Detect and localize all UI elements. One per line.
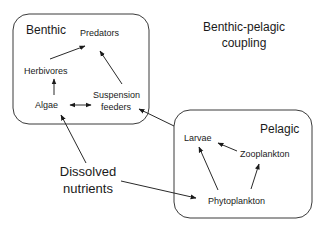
arrow-pelagic-to-suspension-feeders	[139, 109, 174, 126]
arrow-phytoplankton-to-larvae	[199, 147, 218, 190]
diagram-title-line1: Benthic-pelagic	[203, 20, 285, 34]
node-predators: Predators	[80, 28, 120, 38]
node-algae: Algae	[35, 100, 58, 110]
arrow-suspension-to-predators	[100, 51, 122, 84]
benthic-label: Benthic	[26, 23, 66, 37]
node-dissolved-nutrients-line2: nutrients	[63, 181, 113, 196]
node-suspension-feeders-line1: Suspension	[93, 90, 140, 100]
arrow-nutrients-to-algae	[61, 115, 86, 163]
arrow-nutrients-to-phytoplankton	[121, 181, 196, 198]
arrow-zooplankton-to-larvae	[218, 143, 237, 151]
node-herbivores: Herbivores	[24, 66, 68, 76]
node-larvae: Larvae	[184, 133, 212, 143]
arrow-phytoplankton-to-zooplankton	[251, 164, 259, 189]
node-dissolved-nutrients-line1: Dissolved	[60, 164, 116, 179]
node-phytoplankton: Phytoplankton	[208, 196, 265, 206]
diagram-title-line2: coupling	[222, 36, 267, 50]
pelagic-label: Pelagic	[260, 122, 299, 136]
node-suspension-feeders-line2: feeders	[101, 102, 132, 112]
benthic-pelagic-diagram: Benthic Predators Herbivores Algae Suspe…	[0, 0, 324, 229]
arrow-herbivores-to-predators	[50, 46, 85, 59]
node-zooplankton: Zooplankton	[240, 149, 290, 159]
